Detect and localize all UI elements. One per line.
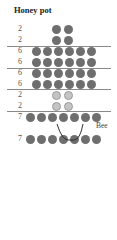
bee-label: Bee: [96, 121, 108, 130]
